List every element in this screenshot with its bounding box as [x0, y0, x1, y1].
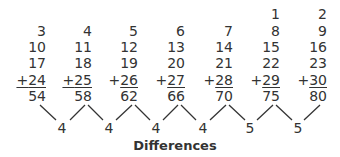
cell: 13	[145, 39, 185, 55]
cell: 4	[52, 23, 92, 39]
cell: 7	[193, 23, 233, 39]
cell: 21	[193, 55, 233, 71]
addend-value: 28	[215, 72, 233, 88]
sum: 62	[98, 88, 138, 104]
plus-sign: +	[16, 72, 28, 88]
cell: 23	[287, 55, 327, 71]
sum: 70	[193, 88, 233, 104]
difference-value: 4	[99, 120, 119, 136]
cell: 1	[240, 6, 280, 22]
sum: 58	[52, 88, 92, 104]
cell: 15	[240, 39, 280, 55]
cell: 12	[98, 39, 138, 55]
addend: +25	[52, 72, 92, 88]
difference-value: 4	[193, 120, 213, 136]
addend: +30	[287, 72, 327, 88]
sum: 75	[240, 88, 280, 104]
cell: 3	[6, 23, 46, 39]
addend-value: 29	[262, 72, 280, 88]
plus-sign: +	[62, 72, 74, 88]
cell: 10	[6, 39, 46, 55]
sum: 80	[287, 88, 327, 104]
cell: 2	[287, 6, 327, 22]
cell: 22	[240, 55, 280, 71]
addend: +26	[98, 72, 138, 88]
plus-sign: +	[250, 72, 262, 88]
cell: 17	[6, 55, 46, 71]
cell: 14	[193, 39, 233, 55]
plus-sign: +	[108, 72, 120, 88]
difference-value: 4	[146, 120, 166, 136]
addend-value: 27	[167, 72, 185, 88]
addend-value: 25	[74, 72, 92, 88]
plus-sign: +	[203, 72, 215, 88]
plus-sign: +	[155, 72, 167, 88]
addend-value: 30	[309, 72, 327, 88]
cell: 18	[52, 55, 92, 71]
cell: 5	[98, 23, 138, 39]
differences-label: Differences	[130, 138, 220, 154]
addend: +28	[193, 72, 233, 88]
plus-sign: +	[297, 72, 309, 88]
cell: 8	[240, 23, 280, 39]
cell: 11	[52, 39, 92, 55]
cell: 16	[287, 39, 327, 55]
difference-value: 5	[240, 120, 260, 136]
difference-value: 4	[52, 120, 72, 136]
addend: +24	[6, 72, 46, 88]
addend: +29	[240, 72, 280, 88]
cell: 19	[98, 55, 138, 71]
cell: 20	[145, 55, 185, 71]
sum: 54	[6, 88, 46, 104]
sum: 66	[145, 88, 185, 104]
cell: 9	[287, 23, 327, 39]
addend-value: 26	[120, 72, 138, 88]
addend-value: 24	[28, 72, 46, 88]
difference-value: 5	[288, 120, 308, 136]
addend: +27	[145, 72, 185, 88]
cell: 6	[145, 23, 185, 39]
